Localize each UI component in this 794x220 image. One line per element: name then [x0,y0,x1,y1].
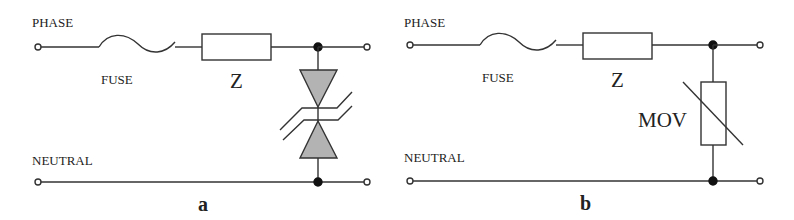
phase-label-b: PHASE [404,15,445,30]
tvs-diode-upper-icon [300,70,337,107]
neutral-input-terminal [35,179,41,185]
phase-input-terminal [35,44,41,50]
impedance-z-box [202,34,271,60]
neutral-junction-dot [709,177,717,185]
fuse-icon [480,33,556,50]
panel-caption-a: a [198,193,208,215]
neutral-label-b: NEUTRAL [404,150,465,165]
circuit-figure: PHASE FUSE Z NEUTRAL a PHASE FUSE Z MOV … [0,0,794,220]
tvs-diode-lower-icon [300,121,337,158]
phase-label-a: PHASE [32,15,73,30]
fuse-label-a: FUSE [101,72,133,87]
phase-input-terminal [407,42,413,48]
fuse-icon [99,35,175,52]
impedance-label-a: Z [230,69,243,93]
neutral-junction-dot [314,178,322,186]
fuse-label-b: FUSE [482,70,514,85]
phase-output-terminal [364,44,370,50]
neutral-output-terminal [757,178,763,184]
neutral-output-terminal [364,179,370,185]
mov-label: MOV [638,108,687,132]
phase-output-terminal [757,42,763,48]
neutral-label-a: NEUTRAL [32,153,93,168]
neutral-input-terminal [407,178,413,184]
panel-caption-b: b [580,192,591,214]
impedance-z-box [583,33,652,59]
impedance-label-b: Z [611,68,624,92]
